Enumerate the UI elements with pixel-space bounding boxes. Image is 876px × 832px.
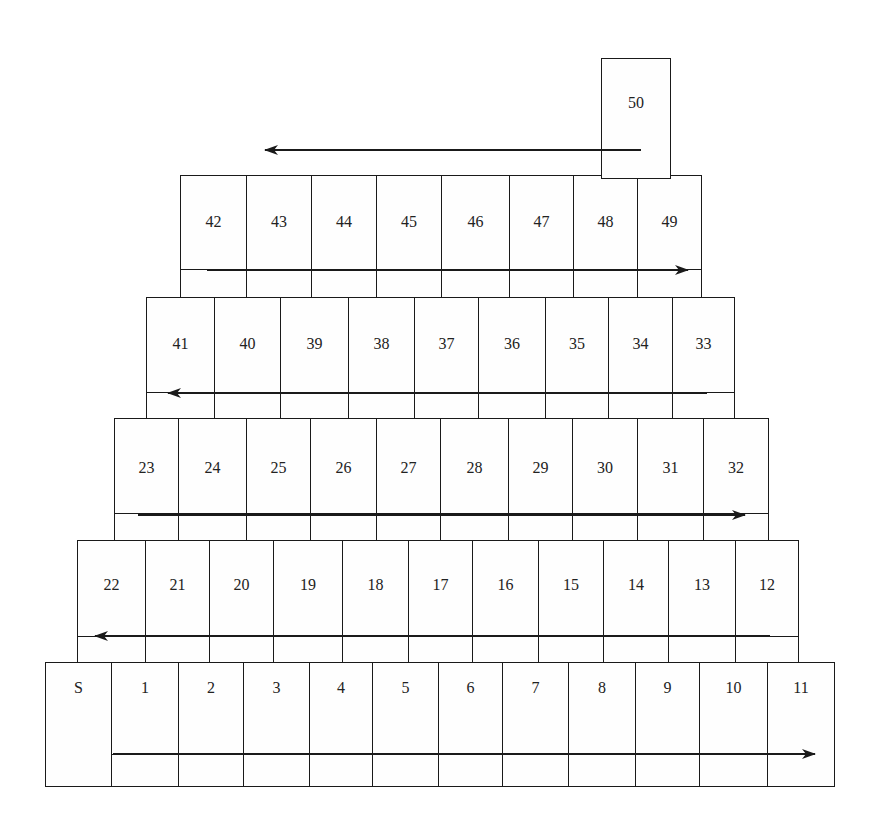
square-number: 36 (479, 335, 545, 353)
square-number: 7 (503, 679, 568, 697)
square-number: S (46, 679, 111, 697)
board-square-44: 44 (311, 175, 377, 298)
square-number: 32 (704, 459, 768, 477)
board-square-27: 27 (376, 418, 441, 541)
square-number: 16 (473, 576, 538, 594)
square-number: 38 (349, 335, 414, 353)
board-square-15: 15 (538, 540, 604, 663)
board-square-38: 38 (348, 297, 415, 419)
square-number: 46 (442, 213, 509, 231)
board-square-21: 21 (145, 540, 210, 663)
board-square-46: 46 (441, 175, 510, 298)
board-square-24: 24 (178, 418, 247, 541)
square-number: 25 (247, 459, 310, 477)
board-square-5: 5 (372, 662, 439, 787)
square-number: 21 (146, 576, 209, 594)
square-number: 29 (509, 459, 572, 477)
board-square-9: 9 (635, 662, 700, 787)
board-square-10: 10 (699, 662, 768, 787)
board-square-25: 25 (246, 418, 311, 541)
board-square-32: 32 (703, 418, 769, 541)
board-square-26: 26 (310, 418, 377, 541)
square-number: 40 (215, 335, 280, 353)
board-square-29: 29 (508, 418, 573, 541)
square-number: 8 (569, 679, 635, 697)
game-board: S123456789101122212019181716151413122324… (0, 0, 876, 832)
square-number: 23 (115, 459, 178, 477)
square-number: 10 (700, 679, 767, 697)
square-number: 28 (441, 459, 508, 477)
lane-divider (111, 754, 767, 755)
lane-divider (114, 513, 768, 514)
board-square-41: 41 (146, 297, 215, 419)
board-square-14: 14 (603, 540, 669, 663)
square-number: 1 (112, 679, 178, 697)
square-number: 48 (574, 213, 637, 231)
square-number: 14 (604, 576, 668, 594)
square-number: 3 (244, 679, 309, 697)
board-square-39: 39 (280, 297, 349, 419)
board-square-4: 4 (309, 662, 373, 787)
board-square-6: 6 (438, 662, 503, 787)
square-number: 41 (147, 335, 214, 353)
square-number: 19 (274, 576, 342, 594)
square-number: 37 (415, 335, 478, 353)
board-square-12: 12 (735, 540, 799, 663)
board-square-20: 20 (209, 540, 274, 663)
square-number: 49 (638, 213, 701, 231)
board-square-43: 43 (246, 175, 312, 298)
square-number: 47 (510, 213, 573, 231)
square-number: 2 (179, 679, 243, 697)
board-square-22: 22 (77, 540, 146, 663)
square-number: 50 (602, 94, 670, 112)
square-number: 18 (343, 576, 408, 594)
board-square-45: 45 (376, 175, 442, 298)
square-number: 42 (181, 213, 246, 231)
square-number: 6 (439, 679, 502, 697)
square-number: 22 (78, 576, 145, 594)
board-square-19: 19 (273, 540, 343, 663)
board-square-30: 30 (572, 418, 638, 541)
square-number: 34 (609, 335, 672, 353)
board-square-34: 34 (608, 297, 673, 419)
square-number: 33 (673, 335, 734, 353)
lane-divider (77, 636, 798, 637)
square-number: 15 (539, 576, 603, 594)
board-square-40: 40 (214, 297, 281, 419)
board-square-28: 28 (440, 418, 509, 541)
square-number: 39 (281, 335, 348, 353)
board-square-48: 48 (573, 175, 638, 298)
board-square-2: 2 (178, 662, 244, 787)
square-number: 4 (310, 679, 372, 697)
board-square-42: 42 (180, 175, 247, 298)
square-number: 17 (409, 576, 472, 594)
board-square-49: 49 (637, 175, 702, 298)
lane-divider (146, 392, 734, 393)
square-number: 31 (638, 459, 703, 477)
square-number: 9 (636, 679, 699, 697)
square-number: 24 (179, 459, 246, 477)
board-square-35: 35 (545, 297, 609, 419)
square-number: 5 (373, 679, 438, 697)
board-square-16: 16 (472, 540, 539, 663)
square-number: 27 (377, 459, 440, 477)
board-square-3: 3 (243, 662, 310, 787)
square-number: 35 (546, 335, 608, 353)
start-square: S (45, 662, 112, 787)
square-number: 44 (312, 213, 376, 231)
board-square-18: 18 (342, 540, 409, 663)
board-square-37: 37 (414, 297, 479, 419)
board-square-23: 23 (114, 418, 179, 541)
board-square-31: 31 (637, 418, 704, 541)
square-number: 13 (669, 576, 735, 594)
square-number: 43 (247, 213, 311, 231)
board-square-1: 1 (111, 662, 179, 787)
board-square-13: 13 (668, 540, 736, 663)
lane-divider (180, 269, 701, 270)
square-number: 30 (573, 459, 637, 477)
board-square-36: 36 (478, 297, 546, 419)
square-number: 45 (377, 213, 441, 231)
board-square-33: 33 (672, 297, 735, 419)
square-number: 11 (768, 679, 834, 697)
board-square-17: 17 (408, 540, 473, 663)
